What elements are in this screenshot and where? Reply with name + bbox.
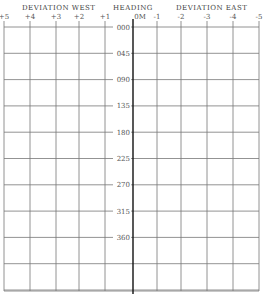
x-tick-east: -2	[178, 13, 185, 21]
x-tick-west: +2	[74, 13, 84, 21]
heading-label: 315	[117, 208, 130, 216]
heading-label: 135	[117, 102, 130, 110]
x-tick-east: -1	[154, 13, 161, 21]
x-tick-east: -3	[204, 13, 211, 21]
x-tick-east: -5	[256, 13, 263, 21]
deviation-chart: +5+4+3+2+10M-1-2-3-4-5000045090135180225…	[0, 0, 265, 296]
x-tick-west: +1	[100, 13, 110, 21]
heading-label: 360	[117, 234, 130, 242]
heading-label: 045	[117, 50, 130, 58]
heading-label: 180	[117, 129, 130, 137]
x-tick-west: +5	[0, 13, 9, 21]
x-tick-east: -4	[230, 13, 237, 21]
heading-label: 225	[117, 155, 130, 163]
heading-label: 000	[117, 24, 130, 32]
x-tick-east: 0M	[134, 13, 146, 21]
x-tick-west: +3	[51, 13, 61, 21]
heading-label: 090	[117, 76, 130, 84]
x-tick-west: +4	[25, 13, 36, 21]
heading-label: 270	[117, 181, 130, 189]
